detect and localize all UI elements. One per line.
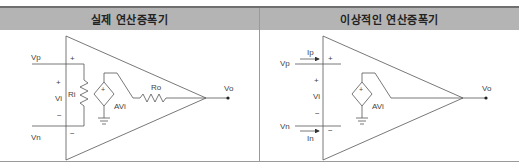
header-ideal-opamp: 이상적인 연산증폭기 <box>260 8 519 30</box>
ideal-opamp-circuit: Vp Vn Ip In + − + Vi − + AVi Vo <box>260 30 519 162</box>
label-plus-input: + <box>328 54 333 63</box>
label-vo: Vo <box>482 84 492 93</box>
label-plus-input: + <box>70 54 75 63</box>
label-vi-plus: + <box>56 78 61 87</box>
opamp-comparison-table: 실제 연산증폭기 이상적인 연산증폭기 <box>0 6 519 162</box>
vo-node-dot <box>484 96 487 99</box>
label-vi-minus: − <box>315 109 320 118</box>
label-minus-input: − <box>70 129 75 138</box>
label-vi: Vi <box>55 94 62 103</box>
label-vn: Vn <box>31 133 41 142</box>
label-vp: Vp <box>31 53 41 62</box>
label-vi-plus: + <box>314 76 319 85</box>
label-vo: Vo <box>224 84 234 93</box>
vo-node-dot <box>226 96 229 99</box>
label-vi: Vi <box>313 92 320 101</box>
label-ri: Ri <box>68 90 76 99</box>
label-in: In <box>307 134 314 143</box>
label-vn: Vn <box>280 122 290 131</box>
real-opamp-circuit: Vp Vn + − + Vi − Ri + AVi Ro Vo <box>0 30 259 162</box>
real-opamp-diagram: Vp Vn + − + Vi − Ri + AVi Ro Vo <box>0 30 259 162</box>
label-avi: AVi <box>114 102 126 111</box>
header-real-opamp: 실제 연산증폭기 <box>0 8 259 30</box>
label-vi-minus: − <box>57 111 62 120</box>
label-ro: Ro <box>151 83 162 92</box>
ideal-opamp-diagram: Vp Vn Ip In + − + Vi − + AVi Vo <box>260 30 519 162</box>
label-source-plus: + <box>101 86 105 93</box>
label-source-plus: + <box>359 86 363 93</box>
label-ip: Ip <box>307 48 314 57</box>
label-avi: AVi <box>372 102 384 111</box>
label-vp: Vp <box>280 59 290 68</box>
label-minus-input: − <box>328 126 333 135</box>
